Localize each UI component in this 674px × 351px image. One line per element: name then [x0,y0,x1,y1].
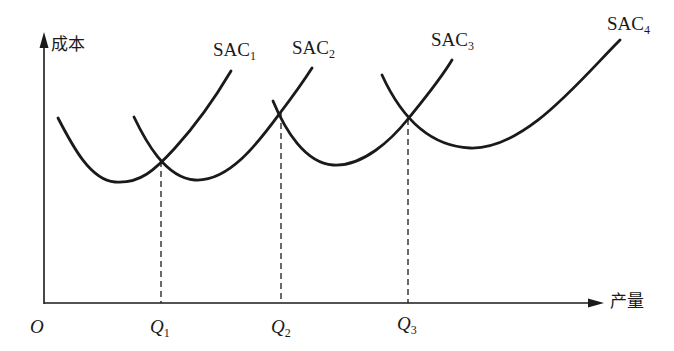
q3-label: Q3 [397,314,417,336]
sac4-curve [382,40,620,148]
sac4-label-text: SAC [607,13,644,34]
sac4-label-sub: 4 [644,23,650,37]
sac1-label-text: SAC [213,39,250,60]
sac2-label-text: SAC [292,37,329,58]
y-axis-arrow-icon [40,32,49,48]
q3-label-sub: 3 [411,323,417,337]
y-axis [40,32,49,304]
sac3-curve [273,60,452,165]
sac3-label: SAC3 [431,30,474,52]
sac2-label-sub: 2 [329,47,335,61]
sac1-label-sub: 1 [250,49,256,63]
sac3-label-text: SAC [431,29,468,50]
x-axis-arrow-icon [588,299,604,308]
sac1-curve [58,71,231,182]
x-axis [44,299,604,308]
quantity-guides [161,113,408,303]
q3-label-text: Q [397,313,411,334]
y-axis-label: 成本 [51,36,85,53]
q1-label: Q1 [150,317,170,339]
x-axis-label: 产量 [610,293,644,310]
sac-curves-diagram: 成本 产量 O SAC1 SAC2 SAC3 SAC4 Q1 Q2 Q3 [0,0,674,351]
diagram-canvas [0,0,674,351]
q2-label-sub: 2 [285,326,291,340]
sac1-label: SAC1 [213,40,256,62]
origin-label: O [30,317,44,336]
sac3-label-sub: 3 [468,39,474,53]
sac4-label: SAC4 [607,14,650,36]
q1-label-sub: 1 [164,326,170,340]
sac2-label: SAC2 [292,38,335,60]
q2-label: Q2 [271,317,291,339]
q2-label-text: Q [271,316,285,337]
q1-label-text: Q [150,316,164,337]
